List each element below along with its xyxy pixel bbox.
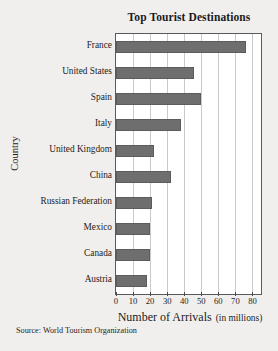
- bar-united-kingdom: [116, 145, 154, 157]
- bar-row: [116, 112, 261, 138]
- y-axis-tick-labels: FranceUnited StatesSpainItalyUnited King…: [3, 33, 112, 295]
- x-tick-mark: [116, 292, 117, 296]
- bar-row: [116, 242, 261, 268]
- chart-figure: Top Tourist Destinations Country FranceU…: [0, 0, 278, 351]
- y-tick-label-united-kingdom: United Kingdom: [4, 144, 112, 154]
- source-note: Source: World Tourism Organization: [16, 326, 137, 335]
- x-tick-mark: [235, 292, 236, 296]
- bar-austria: [116, 275, 147, 287]
- bar-italy: [116, 119, 181, 131]
- x-tick-mark: [201, 292, 202, 296]
- y-tick-label-france: France: [4, 40, 112, 50]
- x-axis-title: Number of Arrivals (in millions): [105, 307, 275, 325]
- bar-china: [116, 171, 171, 183]
- y-tick-label-china: China: [4, 170, 112, 180]
- x-axis-title-main: Number of Arrivals: [118, 310, 212, 324]
- x-tick-mark: [133, 292, 134, 296]
- x-tick-mark: [167, 292, 168, 296]
- bar-canada: [116, 249, 150, 261]
- bar-row: [116, 164, 261, 190]
- bars-container: [116, 34, 261, 294]
- x-tick-mark: [218, 292, 219, 296]
- bar-row: [116, 190, 261, 216]
- bar-united-states: [116, 67, 194, 79]
- x-tick-label-20: 20: [146, 296, 155, 306]
- x-axis-title-units: (in millions): [216, 313, 263, 323]
- x-tick-label-40: 40: [180, 296, 189, 306]
- x-tick-mark: [184, 292, 185, 296]
- bar-spain: [116, 93, 201, 105]
- x-tick-label-60: 60: [214, 296, 223, 306]
- x-tick-label-80: 80: [248, 296, 257, 306]
- x-tick-mark: [252, 292, 253, 296]
- bar-russian-federation: [116, 197, 152, 209]
- y-tick-label-spain: Spain: [4, 92, 112, 102]
- x-tick-label-30: 30: [163, 296, 172, 306]
- y-tick-label-mexico: Mexico: [4, 222, 112, 232]
- bar-row: [116, 60, 261, 86]
- bar-france: [116, 41, 246, 53]
- x-tick-label-0: 0: [114, 296, 118, 306]
- y-tick-label-russian-federation: Russian Federation: [4, 196, 112, 206]
- bar-row: [116, 86, 261, 112]
- x-tick-label-70: 70: [231, 296, 240, 306]
- bar-row: [116, 216, 261, 242]
- x-tick-label-50: 50: [197, 296, 206, 306]
- bar-row: [116, 138, 261, 164]
- bar-mexico: [116, 223, 150, 235]
- y-tick-label-canada: Canada: [4, 248, 112, 258]
- bar-row: [116, 34, 261, 60]
- chart-title: Top Tourist Destinations: [115, 11, 263, 23]
- plot-area: [115, 33, 262, 295]
- y-tick-label-italy: Italy: [4, 118, 112, 128]
- y-tick-label-united-states: United States: [4, 66, 112, 76]
- y-tick-label-austria: Austria: [4, 274, 112, 284]
- x-tick-mark: [150, 292, 151, 296]
- bar-row: [116, 268, 261, 294]
- x-tick-label-10: 10: [129, 296, 138, 306]
